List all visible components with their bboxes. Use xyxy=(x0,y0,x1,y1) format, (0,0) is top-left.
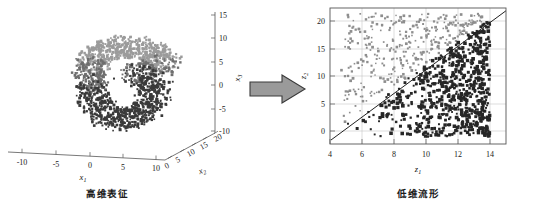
x1-tick-3: 5 xyxy=(121,163,125,172)
x1-tick-2: 0 xyxy=(88,161,92,170)
x3-tick-4: -5 xyxy=(219,105,226,114)
transform-arrow-svg xyxy=(248,72,308,106)
z2-tick-2: 10 xyxy=(317,72,325,81)
x3-axis-label: x3 xyxy=(232,75,243,83)
x1-tick-4: 10 xyxy=(152,164,160,173)
left-plot-svg: -10 -5 0 5 10 x1 0 5 10 15 20 x2 xyxy=(0,0,250,182)
x1-axis-line xyxy=(8,152,165,160)
z1-tick-3: 10 xyxy=(422,150,430,159)
high-dim-3d-plot: -10 -5 0 5 10 x1 0 5 10 15 20 x2 xyxy=(0,0,250,182)
arrow-panel xyxy=(248,72,308,106)
x2-axis-label: x2 xyxy=(196,164,207,177)
z1-ticks: 4 6 8 10 12 14 xyxy=(328,139,494,159)
manifold-point-cloud xyxy=(71,35,183,132)
x1-tick-0: -10 xyxy=(17,158,28,167)
z1-tick-2: 8 xyxy=(392,150,396,159)
z1-tick-1: 6 xyxy=(360,150,364,159)
figure-root: -10 -5 0 5 10 x1 0 5 10 15 20 x2 xyxy=(0,0,536,211)
z2-tick-4: 20 xyxy=(317,17,325,26)
z1-tick-5: 14 xyxy=(486,150,494,159)
caption-high-dim: 高维表征 xyxy=(0,186,214,200)
z2-tick-0: 0 xyxy=(321,127,325,136)
x1-axis-label: x1 xyxy=(79,172,87,182)
z2-tick-3: 15 xyxy=(317,45,325,54)
x2-tick-1: 5 xyxy=(174,155,182,165)
low-dim-point-cloud xyxy=(340,12,491,137)
x3-ticks: 15 10 5 0 -5 -10 xyxy=(211,11,230,136)
z1-axis-label: z1 xyxy=(414,164,421,175)
x3-tick-1: 10 xyxy=(219,34,227,43)
z1-tick-0: 4 xyxy=(328,150,332,159)
x1-tick-1: -5 xyxy=(53,160,60,169)
x2-tick-2: 10 xyxy=(185,147,196,159)
x3-tick-0: 15 xyxy=(219,11,227,20)
x2-tick-3: 15 xyxy=(198,140,209,152)
z2-ticks: 0 5 10 15 20 xyxy=(317,17,335,136)
x2-ticks: 0 5 10 15 20 xyxy=(163,131,224,171)
z2-axis-label: z2 xyxy=(300,73,309,80)
z1-tick-4: 12 xyxy=(454,150,462,159)
x1-ticks: -10 -5 0 5 10 xyxy=(17,149,160,173)
right-plot-svg: 4 6 8 10 12 14 z1 0 5 10 15 20 z2 xyxy=(300,0,536,182)
caption-low-dim: 低维流形 xyxy=(318,186,518,200)
x3-tick-3: 0 xyxy=(219,81,223,90)
x3-tick-5: -10 xyxy=(219,127,230,136)
x2-tick-0: 0 xyxy=(163,161,171,171)
x3-tick-2: 5 xyxy=(219,58,223,67)
z2-tick-1: 5 xyxy=(321,100,325,109)
low-dim-scatter-plot: 4 6 8 10 12 14 z1 0 5 10 15 20 z2 xyxy=(300,0,536,182)
transform-arrow-icon xyxy=(250,75,305,103)
